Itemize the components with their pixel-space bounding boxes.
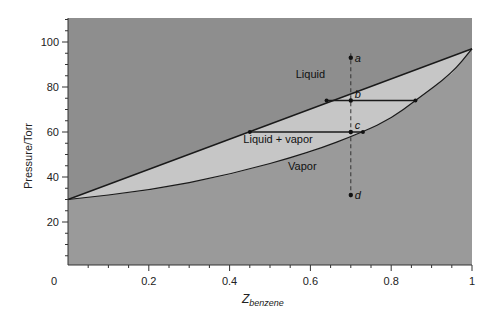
phase-diagram: 2040608010000.20.40.60.81 abcdLiquidLiqu… (0, 0, 499, 317)
y-axis-title: Pressure/Torr (22, 106, 34, 206)
point-label-b: b (355, 88, 361, 100)
point-label-a: a (355, 52, 361, 64)
tie-endpoint (413, 99, 417, 103)
tie-endpoint (361, 130, 365, 134)
point-c (349, 130, 353, 134)
y-tick-label: 80 (47, 81, 59, 93)
point-b (349, 98, 353, 102)
x-tick-label: 0 (51, 275, 57, 287)
region-label: Vapor (288, 160, 317, 172)
x-tick-label: 0.6 (303, 275, 318, 287)
x-tick-label: 1 (469, 275, 475, 287)
y-tick-label: 100 (41, 36, 59, 48)
point-label-c: c (355, 119, 361, 131)
y-tick-label: 20 (47, 216, 59, 228)
tie-endpoint (325, 99, 329, 103)
point-d (349, 193, 353, 197)
x-tick-label: 0.2 (141, 275, 156, 287)
region-label: Liquid + vapor (243, 133, 313, 145)
y-tick-label: 40 (47, 171, 59, 183)
x-axis-title: Zbenzene (242, 292, 284, 308)
point-a (349, 56, 353, 60)
y-tick-label: 60 (47, 126, 59, 138)
point-label-d: d (355, 189, 362, 201)
region-label: Liquid (296, 68, 325, 80)
x-axis-title-sub: benzene (249, 298, 284, 308)
x-tick-label: 0.4 (222, 275, 237, 287)
x-tick-label: 0.8 (384, 275, 399, 287)
